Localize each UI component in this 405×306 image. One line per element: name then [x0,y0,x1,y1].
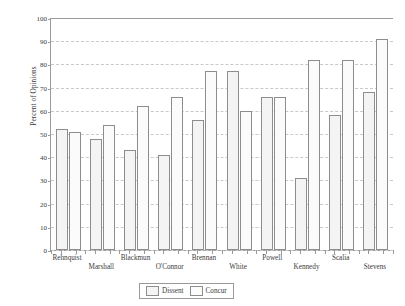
y-tick-label: 50 [40,131,47,139]
bar[interactable] [69,132,81,250]
legend-item-concur[interactable]: Concur [190,286,227,296]
chart-legend: DissentConcur [139,283,234,299]
bar[interactable] [329,115,341,250]
bar-group [51,18,85,250]
bar-series-area [51,18,393,250]
bar-group [290,18,324,250]
y-tick-label: 70 [40,85,47,93]
x-tick-label: Marshall [89,263,115,271]
bar[interactable] [192,120,204,250]
y-tick-label: 20 [40,201,47,209]
y-tick-label: 10 [40,224,47,232]
legend-swatch-concur [190,286,203,296]
bar-group [188,18,222,250]
bar-group [256,18,290,250]
bar[interactable] [90,139,102,250]
bar[interactable] [240,111,252,250]
bar[interactable] [342,60,354,250]
y-tick-label: 80 [40,61,47,69]
x-tick-label: Brennan [192,254,216,262]
bar-group [154,18,188,250]
legend-item-dissent[interactable]: Dissent [146,286,184,296]
bar-group [325,18,359,250]
y-tick-label: 40 [40,154,47,162]
bar[interactable] [137,106,149,250]
x-tick-label: Rehnquist [53,254,82,262]
legend-swatch-dissent [146,286,159,296]
x-tick-label: Kennedy [294,263,320,271]
legend-label: Concur [206,287,227,295]
y-tick-label: 30 [40,177,47,185]
x-tick-label: White [229,263,247,271]
x-tick-label: Blackmun [121,254,151,262]
bar[interactable] [227,71,239,250]
bar[interactable] [363,92,375,250]
x-axis-labels: RehnquistMarshallBlackmunO'ConnorBrennan… [50,254,392,276]
bar[interactable] [274,97,286,250]
bar[interactable] [158,155,170,250]
chart-container: Percent of Opinions 01020304050607080901… [0,0,405,306]
bar[interactable] [376,39,388,250]
bar[interactable] [308,60,320,250]
bar[interactable] [171,97,183,250]
x-tick-label: O'Connor [156,263,184,271]
bar-group [85,18,119,250]
bar[interactable] [261,97,273,250]
x-tick-label: Scalia [332,254,350,262]
bar-group [359,18,393,250]
x-tick-label: Stevens [364,263,386,271]
bar[interactable] [124,150,136,250]
bar[interactable] [103,125,115,250]
x-tick-mark [393,250,394,254]
plot-area: 0102030405060708090100 [50,18,393,251]
y-axis-title: Percent of Opinions [30,16,38,176]
y-tick-label: 90 [40,38,47,46]
legend-label: Dissent [162,287,184,295]
bar[interactable] [205,71,217,250]
bar-group [222,18,256,250]
y-tick-label: 0 [44,247,48,255]
bar-group [119,18,153,250]
bar[interactable] [56,129,68,250]
y-tick-label: 100 [37,15,48,23]
x-tick-label: Powell [262,254,282,262]
bar[interactable] [295,178,307,250]
y-tick-label: 60 [40,108,47,116]
